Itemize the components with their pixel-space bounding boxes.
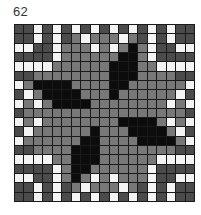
grid-cell (129, 62, 137, 70)
grid-cell (34, 155, 42, 163)
grid-cell (72, 90, 80, 98)
grid-cell (15, 146, 23, 154)
grid-cell (148, 174, 156, 182)
grid-cell (72, 146, 80, 154)
grid-cell (157, 100, 165, 108)
grid-cell (148, 72, 156, 80)
grid-cell (43, 118, 51, 126)
grid-cell (110, 72, 118, 80)
grid-cell (148, 146, 156, 154)
grid-cell (119, 25, 127, 33)
grid-cell (157, 44, 165, 52)
grid-cell (72, 193, 80, 201)
grid-cell (138, 109, 146, 117)
grid-cell (157, 72, 165, 80)
grid-cell (157, 165, 165, 173)
grid-cell (138, 174, 146, 182)
grid-cell (157, 90, 165, 98)
grid-cell (157, 34, 165, 42)
grid-cell (72, 81, 80, 89)
grid-cell (34, 90, 42, 98)
grid-cell (15, 155, 23, 163)
grid-cell (100, 109, 108, 117)
grid-cell (119, 72, 127, 80)
grid-cell (186, 127, 194, 135)
grid-cell (100, 155, 108, 163)
grid-cell (157, 193, 165, 201)
grid-cell (91, 146, 99, 154)
grid-cell (81, 62, 89, 70)
grid-cell (110, 127, 118, 135)
grid-cell (24, 118, 32, 126)
grid-cell (129, 118, 137, 126)
grid-cell (138, 90, 146, 98)
grid-cell (119, 127, 127, 135)
grid-cell (138, 118, 146, 126)
grid-cell (186, 100, 194, 108)
grid-cell (157, 25, 165, 33)
grid-cell (62, 62, 70, 70)
grid-cell (62, 165, 70, 173)
grid-cell (167, 183, 175, 191)
grid-cell (129, 183, 137, 191)
grid-cell (15, 193, 23, 201)
grid-cell (81, 137, 89, 145)
grid-cell (43, 109, 51, 117)
grid-cell (157, 62, 165, 70)
grid-cell (138, 137, 146, 145)
grid-cell (62, 109, 70, 117)
grid-cell (100, 62, 108, 70)
grid-cell (15, 72, 23, 80)
grid-cell (91, 81, 99, 89)
grid-cell (34, 137, 42, 145)
grid-cell (110, 183, 118, 191)
grid-cell (148, 127, 156, 135)
grid-cell (15, 62, 23, 70)
grid-cell (138, 100, 146, 108)
grid-cell (100, 81, 108, 89)
grid-cell (148, 53, 156, 61)
grid-cell (100, 90, 108, 98)
grid-cell (138, 146, 146, 154)
grid-cell (167, 72, 175, 80)
grid-cell (129, 127, 137, 135)
grid-cell (34, 165, 42, 173)
grid-cell (176, 165, 184, 173)
grid-cell (34, 62, 42, 70)
grid-cell (167, 109, 175, 117)
grid-cell (53, 34, 61, 42)
grid-cell (62, 53, 70, 61)
grid-cell (148, 25, 156, 33)
grid-cell (62, 81, 70, 89)
grid-cell (129, 72, 137, 80)
grid-cell (176, 118, 184, 126)
grid-cell (15, 25, 23, 33)
grid-cell (91, 25, 99, 33)
grid-cell (53, 174, 61, 182)
grid-cell (129, 137, 137, 145)
grid-cell (100, 100, 108, 108)
grid-cell (43, 81, 51, 89)
grid-cell (186, 25, 194, 33)
grid-cell (176, 109, 184, 117)
grid-cell (100, 34, 108, 42)
grid-cell (176, 34, 184, 42)
grid-cell (81, 155, 89, 163)
grid-cell (34, 100, 42, 108)
grid-cell (91, 118, 99, 126)
grid-cell (148, 183, 156, 191)
grid-cell (129, 81, 137, 89)
figure-number-label: 62 (13, 4, 28, 19)
grid-cell (138, 53, 146, 61)
grid-cell (34, 183, 42, 191)
grid-cell (72, 155, 80, 163)
grid-cell (62, 183, 70, 191)
grid-cell (15, 183, 23, 191)
grid-cell (62, 193, 70, 201)
grid-cell (34, 109, 42, 117)
grid-cell (176, 174, 184, 182)
grid-cell (43, 44, 51, 52)
grid-cell (148, 165, 156, 173)
grid-cell (15, 137, 23, 145)
grid-cell (34, 118, 42, 126)
